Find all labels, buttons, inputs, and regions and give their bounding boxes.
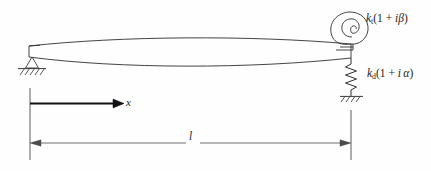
x-axis-arrow (30, 88, 124, 160)
dimension-arrowhead-right (340, 140, 351, 146)
beam-bottom-edge (29, 57, 351, 66)
x-axis-label: x (126, 97, 131, 108)
hatched-ground (340, 96, 363, 102)
spiral-outer-turn (331, 12, 368, 44)
kd-close-paren: ) (409, 67, 413, 79)
coil-zigzag (346, 64, 357, 90)
axial-spring-label: kd(1 + i α) (367, 68, 413, 81)
beam-diagram-figure: kt(1 + iβ) kd(1 + i α) x l (0, 0, 431, 171)
beam-left-top-tick (29, 45, 40, 46)
pin-triangle (26, 57, 39, 68)
kd-open-paren: (1 + (376, 67, 398, 79)
spring-ground-hatching (341, 96, 360, 102)
length-dimension-label: l (189, 131, 192, 143)
kt-close-paren: ) (404, 12, 408, 24)
x-axis-arrowhead (113, 99, 124, 108)
kt-open-paren: (1 + (373, 12, 395, 24)
beam-top-edge (29, 38, 351, 46)
deflected-beam (29, 38, 351, 66)
spiral-core-tail (351, 26, 357, 33)
spiral-spring (331, 12, 368, 50)
pinned-support (18, 57, 46, 75)
pin-ground-hatching (20, 69, 45, 75)
torsional-spring-label: kt(1 + iβ) (366, 13, 408, 26)
coil-spring (346, 58, 357, 96)
dimension-arrowhead-left (30, 140, 41, 146)
